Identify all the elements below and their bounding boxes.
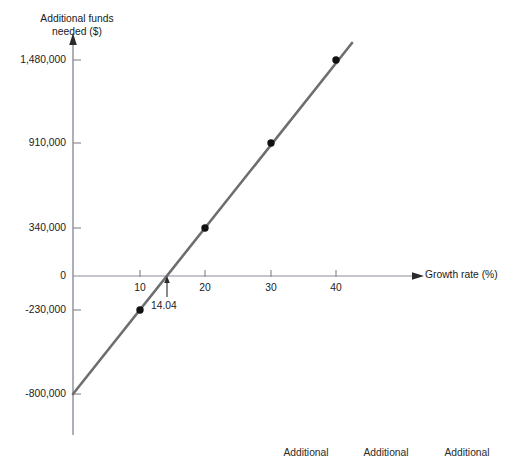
data-point-40 xyxy=(332,56,339,63)
x-tick-label-30: 30 xyxy=(251,282,291,293)
y-tick-label-340000: 340,000 xyxy=(0,222,66,233)
plot-area xyxy=(0,0,517,459)
x-axis-arrowhead xyxy=(412,272,424,279)
x-tick-label-20: 20 xyxy=(185,282,225,293)
x-tick-label-40: 40 xyxy=(316,282,356,293)
data-point-10 xyxy=(136,306,143,313)
y-tick-label-minus800000: -800,000 xyxy=(0,388,66,399)
bottom-clipped-header-row: Additional Additional Additional xyxy=(0,447,517,459)
bottom-clipped-header-1: Additional xyxy=(261,447,351,458)
bottom-clipped-header-2: Additional xyxy=(341,447,431,458)
x-tick-label-10: 10 xyxy=(120,282,160,293)
y-tick-label-minus230000: -230,000 xyxy=(0,304,66,315)
y-tick-label-910000: 910,000 xyxy=(0,137,66,148)
y-axis-arrowhead xyxy=(69,33,77,45)
data-point-20 xyxy=(201,224,208,231)
bottom-clipped-header-3: Additional xyxy=(422,447,512,458)
breakeven-annotation-label: 14.04 xyxy=(151,300,177,311)
data-point-30 xyxy=(267,139,274,146)
chart-figure: Additional funds needed ($) Growth rate … xyxy=(0,0,517,459)
y-tick-label-0: 0 xyxy=(0,270,66,281)
y-tick-label-1480000: 1,480,000 xyxy=(0,54,66,65)
data-line xyxy=(73,43,352,394)
